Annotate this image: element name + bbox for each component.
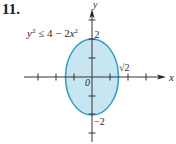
- inequality-rhs-exp: 2: [75, 27, 79, 35]
- y-intercept-bottom-label: −2: [94, 116, 105, 127]
- origin-label: 0: [85, 77, 90, 88]
- y-intercept-top-label: 2: [95, 29, 100, 40]
- inequality-op: ≤ 4 − 2: [35, 27, 69, 39]
- region-plot: x y 0 2 −2 √2 y2 ≤ 4 − 2x2: [0, 0, 176, 144]
- x-intercept-label: √2: [119, 62, 130, 73]
- y-axis-label: y: [92, 0, 98, 10]
- inequality-label: y2 ≤ 4 − 2x2: [26, 27, 79, 39]
- x-axis-label: x: [168, 71, 174, 83]
